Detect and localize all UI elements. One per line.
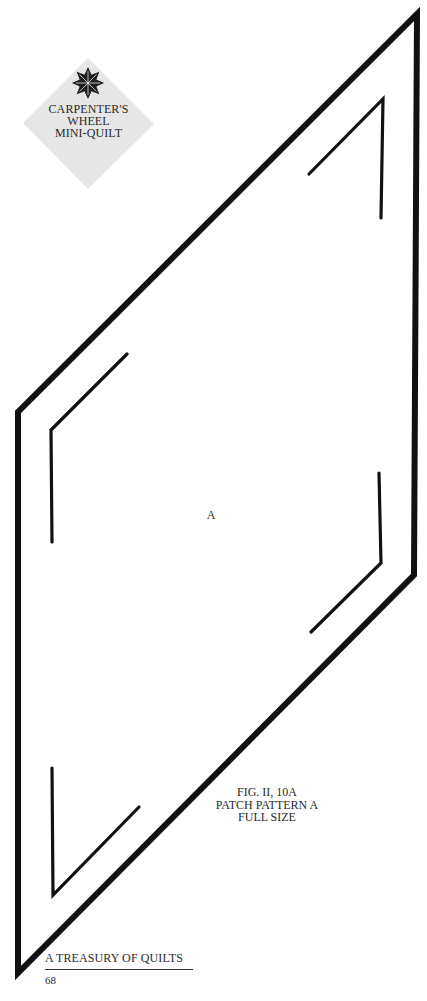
footer-divider — [45, 969, 193, 970]
seam-mark-top-right — [309, 99, 383, 218]
caption-line: FIG. II, 10A — [200, 786, 334, 799]
book-title: A TREASURY OF QUILTS — [45, 951, 193, 965]
badge-line: MINI-QUILT — [23, 127, 154, 139]
seam-mark-left — [51, 354, 127, 542]
seam-mark-bottom-left — [52, 768, 139, 895]
page-footer: A TREASURY OF QUILTS 68 — [45, 951, 193, 987]
page-number: 68 — [45, 974, 193, 987]
document-page: CARPENTER'S WHEEL MINI-QUILT A FIG. II, … — [0, 0, 427, 1001]
quilt-badge-title: CARPENTER'S WHEEL MINI-QUILT — [23, 103, 154, 139]
eight-point-star-icon — [72, 67, 104, 99]
seam-mark-right — [311, 473, 381, 632]
caption-line: FULL SIZE — [200, 811, 334, 824]
figure-caption: FIG. II, 10A PATCH PATTERN A FULL SIZE — [200, 786, 334, 824]
patch-letter: A — [203, 508, 219, 522]
patch-pattern-diagram — [0, 0, 427, 1001]
